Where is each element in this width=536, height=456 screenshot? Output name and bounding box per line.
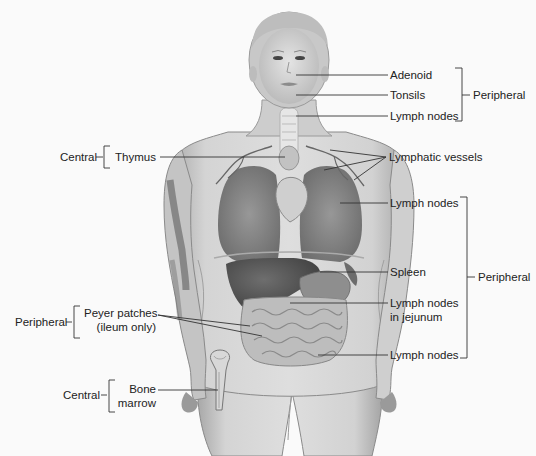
label-bone-2: marrow [116, 397, 156, 410]
label-central-thymus: Central [60, 151, 97, 164]
label-peyer-2: (ileum only) [84, 321, 156, 334]
head [249, 12, 329, 108]
human-figure-illustration [0, 0, 536, 456]
label-peripheral-peyer: Peripheral [15, 316, 67, 329]
label-lymph-nodes-inguinal: Lymph nodes [390, 349, 459, 362]
label-lymph-nodes-neck: Lymph nodes [390, 110, 459, 123]
label-peripheral-head: Peripheral [473, 89, 525, 102]
label-lymph-nodes-jejunum-1: Lymph nodes [390, 297, 459, 310]
eye-icon [273, 56, 283, 60]
label-lymph-nodes-axillary: Lymph nodes [390, 197, 459, 210]
eye-icon [295, 56, 305, 60]
label-lymphatic-vessels: Lymphatic vessels [389, 151, 483, 164]
thymus-organ [279, 146, 299, 170]
label-central-bone: Central [63, 389, 100, 402]
label-adenoid: Adenoid [390, 69, 432, 82]
label-peripheral-body: Peripheral [478, 271, 530, 284]
intestines [241, 297, 348, 366]
label-lymph-nodes-jejunum-2: in jejunum [390, 311, 442, 324]
anatomy-diagram: Adenoid Tonsils Lymph nodes Peripheral L… [0, 0, 536, 456]
right-lung [218, 166, 280, 262]
label-spleen: Spleen [390, 266, 426, 279]
label-bone-1: Bone [116, 383, 156, 396]
label-peyer-1: Peyer patches [84, 307, 156, 320]
label-thymus: Thymus [115, 151, 156, 164]
left-lung [300, 166, 362, 262]
label-tonsils: Tonsils [390, 89, 425, 102]
